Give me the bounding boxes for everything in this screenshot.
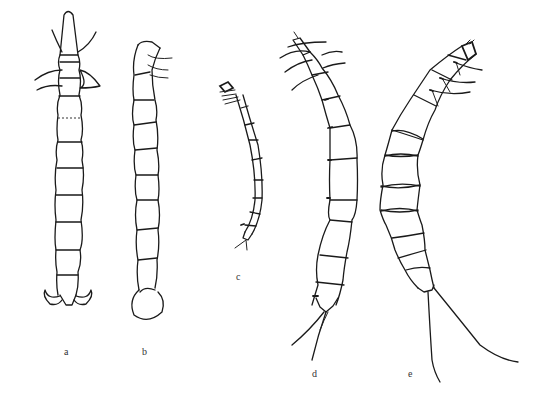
larva-c-drawing [220,82,263,250]
larva-a-drawing [35,12,100,306]
larvae-drawings [0,0,551,397]
panel-label-d: d [312,368,317,379]
panel-label-e: e [408,368,412,379]
larva-e-drawing [380,40,518,382]
panel-label-b: b [142,346,147,357]
panel-label-a: a [64,346,68,357]
larva-b-drawing [132,41,172,319]
larvae-figure: a b c d e [0,0,551,397]
larva-d-drawing [280,32,358,360]
panel-label-c: c [236,271,240,282]
